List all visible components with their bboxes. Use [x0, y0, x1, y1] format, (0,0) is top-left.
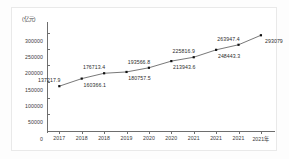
x-axis-tick-mark [149, 131, 150, 134]
x-axis-tick-label: 2020 [165, 135, 177, 141]
y-axis-tick-text: 300000 [25, 37, 47, 46]
data-point-label: 263947.4 [217, 36, 239, 42]
x-axis-tick-mark [82, 131, 83, 134]
y-axis-tick-mark [47, 114, 50, 115]
y-axis-tick-label: 50000 [0, 110, 47, 119]
x-axis-tick-mark [59, 131, 60, 134]
data-point-label: 248443.3 [218, 53, 240, 59]
data-point-label: 193566.8 [128, 59, 150, 65]
x-axis-tick-label: 2020 [143, 135, 155, 141]
data-point-label: 176713.4 [83, 64, 105, 70]
y-axis-tick-text: 100000 [25, 102, 47, 111]
x-axis-tick-mark [194, 131, 195, 134]
y-axis-tick-text: 50000 [28, 118, 47, 127]
x-axis-tick-mark [239, 131, 240, 134]
data-point-label: 213943.6 [173, 64, 195, 70]
y-axis-tick-text: 250000 [25, 53, 47, 62]
y-axis-tick-mark [47, 98, 50, 99]
x-axis-tick-mark [104, 131, 105, 134]
y-axis-tick-label: 200000 [0, 61, 47, 70]
x-axis-tick-label: 2021年 [252, 135, 269, 142]
data-point-label: 137217.9 [38, 77, 60, 83]
chart-figure: (亿元) 05000010000015000020000025000030000… [0, 0, 289, 159]
data-point-label: 160366.1 [84, 82, 106, 88]
x-axis-tick-label: 2021 [210, 135, 222, 141]
y-axis-tick-text: 150000 [25, 86, 47, 95]
x-axis-tick-label: 2019 [121, 135, 133, 141]
x-axis-tick-label: 2021 [233, 135, 245, 141]
x-axis-tick-mark [127, 131, 128, 134]
y-axis-tick-label: 300000 [0, 29, 47, 38]
y-axis-tick-label: 100000 [0, 94, 47, 103]
y-axis-tick-text: 0 [40, 135, 47, 144]
data-point-label: 293079 [265, 38, 283, 44]
x-axis-tick-label: 2021 [188, 135, 200, 141]
x-axis-tick-mark [216, 131, 217, 134]
x-axis-tick-label: 2017 [53, 135, 65, 141]
data-point-label: 225816.9 [173, 48, 195, 54]
x-axis-tick-mark [171, 131, 172, 134]
y-axis-tick-mark [47, 65, 50, 66]
y-axis-tick-label: 0 [0, 127, 47, 136]
y-axis-tick-mark [47, 49, 50, 50]
y-axis-tick-label: 250000 [0, 45, 47, 54]
y-axis-unit-label: (亿元) [22, 15, 36, 23]
y-axis-tick-mark [47, 33, 50, 34]
data-point-label: 180757.5 [128, 75, 150, 81]
x-axis-tick-label: 2018 [76, 135, 88, 141]
x-axis-tick-label: 2018 [98, 135, 110, 141]
x-axis-tick-mark [261, 131, 262, 134]
